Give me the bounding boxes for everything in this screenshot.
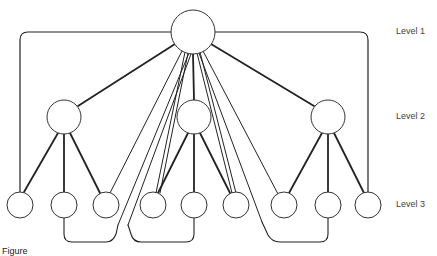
level-3-label: Level 3: [396, 199, 425, 209]
node-l2-2: [177, 100, 211, 134]
node-l3-3: [93, 192, 119, 218]
node-l3-2: [51, 192, 77, 218]
edge-root-l2-mid: [193, 54, 194, 100]
node-l3-4: [140, 192, 166, 218]
edge-root-l2-left: [78, 44, 175, 106]
node-l3-8: [315, 192, 341, 218]
edge-bottom-3: [262, 218, 328, 242]
edge-root-bracket-left: [20, 32, 171, 192]
node-l3-7: [271, 192, 297, 218]
node-l2-3: [311, 100, 345, 134]
figure-caption: Figure: [2, 246, 28, 256]
level-1-label: Level 1: [396, 26, 425, 36]
level-2-label: Level 2: [396, 111, 425, 121]
edge-bottom-2: [128, 218, 194, 242]
node-l3-9: [355, 192, 381, 218]
node-l3-6: [223, 192, 249, 218]
node-root: [171, 10, 215, 54]
node-l3-1: [7, 192, 33, 218]
node-l2-1: [47, 100, 81, 134]
edge-root-bracket-right: [215, 32, 368, 192]
edge-bottom-1: [64, 218, 118, 242]
node-l3-5: [181, 192, 207, 218]
